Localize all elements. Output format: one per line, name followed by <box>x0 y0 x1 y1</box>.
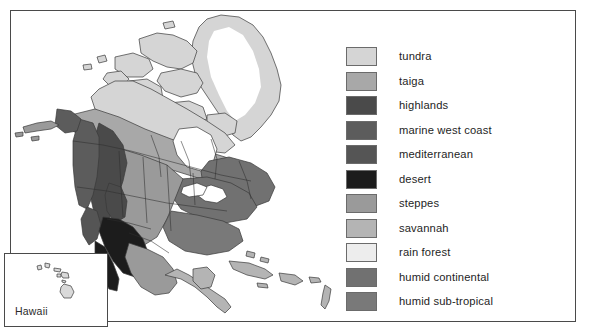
legend-item-highlands[interactable]: highlands <box>346 96 566 115</box>
island-molokai <box>54 268 61 272</box>
legend-swatch-rain-forest <box>346 243 377 262</box>
legend-label-rain-forest: rain forest <box>399 243 450 262</box>
legend-item-humid-sub-tropical[interactable]: humid sub-tropical <box>346 292 566 311</box>
map-legend: tundra taiga highlands marine west coast… <box>346 47 566 317</box>
region-arctic-island-b <box>157 69 203 97</box>
legend-swatch-humid-sub-tropical <box>346 292 377 311</box>
legend-item-desert[interactable]: desert <box>346 170 566 189</box>
island-hawaii <box>60 284 74 298</box>
legend-swatch-tundra <box>346 47 377 66</box>
hawaii-label: Hawaii <box>15 305 48 317</box>
hawaii-inset: Hawaii <box>4 253 108 327</box>
legend-swatch-desert <box>346 170 377 189</box>
legend-label-highlands: highlands <box>399 96 448 115</box>
island-lesser-antilles <box>321 285 331 309</box>
legend-label-humid-continental: humid continental <box>399 268 489 287</box>
legend-swatch-marine-west-coast <box>346 121 377 140</box>
legend-label-savannah: savannah <box>399 219 449 238</box>
island-puerto-rico <box>309 277 321 283</box>
aleutian-dot-b <box>31 136 39 141</box>
legend-label-desert: desert <box>399 170 431 189</box>
legend-item-marine-west-coast[interactable]: marine west coast <box>346 121 566 140</box>
island-lanai <box>57 274 61 277</box>
legend-item-humid-continental[interactable]: humid continental <box>346 268 566 287</box>
legend-swatch-humid-continental <box>346 268 377 287</box>
aleutian-islands <box>23 121 59 133</box>
legend-swatch-highlands <box>346 96 377 115</box>
climate-map-figure: Hawaii tundra taiga highlands marine wes… <box>0 0 590 335</box>
legend-swatch-steppes <box>346 194 377 213</box>
island-kauai <box>37 265 42 270</box>
arctic-dot-a <box>97 55 107 63</box>
region-marine-west-coast-alaska <box>55 109 81 133</box>
island-maui <box>61 272 69 278</box>
aleutian-dot-a <box>15 132 23 137</box>
legend-swatch-mediterranean <box>346 145 377 164</box>
arctic-dot-b <box>83 64 92 70</box>
arctic-dot-c <box>163 21 175 29</box>
island-cuba <box>229 261 273 279</box>
legend-item-mediterranean[interactable]: mediterranean <box>346 145 566 164</box>
legend-label-humid-sub-tropical: humid sub-tropical <box>399 292 493 311</box>
island-bahamas-b <box>260 257 269 263</box>
island-hispaniola <box>279 273 303 285</box>
legend-swatch-savannah <box>346 219 377 238</box>
legend-label-mediterranean: mediterranean <box>399 145 473 164</box>
legend-item-rain-forest[interactable]: rain forest <box>346 243 566 262</box>
legend-label-marine-west-coast: marine west coast <box>399 121 492 140</box>
legend-label-taiga: taiga <box>399 72 424 91</box>
legend-swatch-taiga <box>346 72 377 91</box>
island-jamaica <box>257 283 268 288</box>
island-oahu <box>45 263 50 268</box>
legend-item-tundra[interactable]: tundra <box>346 47 566 66</box>
legend-item-taiga[interactable]: taiga <box>346 72 566 91</box>
island-bahamas-a <box>246 251 255 258</box>
island-kahoolawe <box>62 280 66 283</box>
region-mexico-steppes <box>125 243 177 295</box>
legend-label-tundra: tundra <box>399 47 432 66</box>
legend-item-steppes[interactable]: steppes <box>346 194 566 213</box>
legend-label-steppes: steppes <box>399 194 439 213</box>
legend-item-savannah[interactable]: savannah <box>346 219 566 238</box>
